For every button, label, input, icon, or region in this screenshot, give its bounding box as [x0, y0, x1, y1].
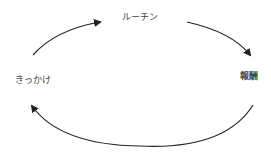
arrow-routine-to-reward — [187, 22, 250, 55]
node-cue: きっかけ — [15, 75, 51, 85]
arrow-reward-to-cue — [32, 105, 253, 146]
node-reward: 報酬 — [240, 71, 258, 81]
arrow-cue-to-routine — [33, 22, 100, 55]
node-routine: ルーチン — [122, 12, 158, 22]
